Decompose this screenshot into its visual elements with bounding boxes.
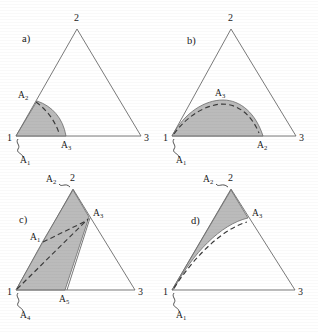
- point-label-A3-b: A3: [215, 88, 226, 99]
- point-label-A2-b: A2: [257, 140, 267, 151]
- panel-label-d: d): [191, 215, 200, 227]
- vertex-label-2-c: 2: [70, 172, 75, 183]
- vertex-label-2-b: 2: [228, 12, 233, 23]
- panel-label-c: c): [19, 214, 28, 226]
- panel-b: b) 2 1 3 A3 A2 A1: [159, 0, 318, 166]
- callout-squiggle-A2-c: [59, 184, 70, 187]
- callout-squiggle-A2-d: [216, 184, 228, 187]
- vertex-label-3-d: 3: [298, 286, 303, 297]
- callout-label-A1-b: A1: [176, 155, 186, 166]
- callout-label-A1-d: A1: [176, 310, 186, 321]
- vertex-label-1-d: 1: [163, 286, 168, 297]
- shaded-region-d: [172, 190, 248, 290]
- vertex-label-1-a: 1: [7, 132, 12, 143]
- point-label-A3-a: A3: [61, 140, 72, 151]
- callout-squiggle-A1-d: [173, 293, 179, 311]
- point-label-A2-d: A2: [203, 174, 213, 185]
- point-label-A3-d: A3: [252, 208, 263, 219]
- panel-c: c) 2 1 3 A2 A3 A1 A5 A4: [0, 166, 159, 332]
- panel-d: d) 2 1 3 A2 A3 A1: [159, 166, 318, 332]
- vertex-label-3-c: 3: [138, 286, 143, 297]
- panel-label-a: a): [22, 33, 31, 45]
- point-label-A1-c: A1: [30, 232, 40, 243]
- point-label-A2-a: A2: [18, 90, 28, 101]
- panel-a: a) 2 1 3 A2 A3 A1: [0, 0, 159, 166]
- callout-squiggle-A4-c: [17, 293, 23, 311]
- point-label-A2-c: A2: [46, 174, 56, 185]
- point-label-A5-c: A5: [59, 294, 70, 305]
- vertex-label-3-a: 3: [144, 132, 149, 143]
- vertex-label-2-a: 2: [74, 12, 79, 23]
- point-label-A3-c: A3: [93, 208, 104, 219]
- vertex-label-3-b: 3: [299, 132, 304, 143]
- shaded-region-c: [16, 190, 89, 290]
- panel-label-b: b): [187, 35, 196, 47]
- shaded-region-b: [172, 100, 263, 136]
- callout-label-A4-c: A4: [20, 310, 31, 321]
- callout-label-A1-a: A1: [20, 155, 30, 166]
- vertex-label-1-c: 1: [7, 286, 12, 297]
- vertex-label-2-d: 2: [228, 172, 233, 183]
- figure-root: a) 2 1 3 A2 A3 A1 b) 2: [0, 0, 318, 332]
- vertex-label-1-b: 1: [163, 132, 168, 143]
